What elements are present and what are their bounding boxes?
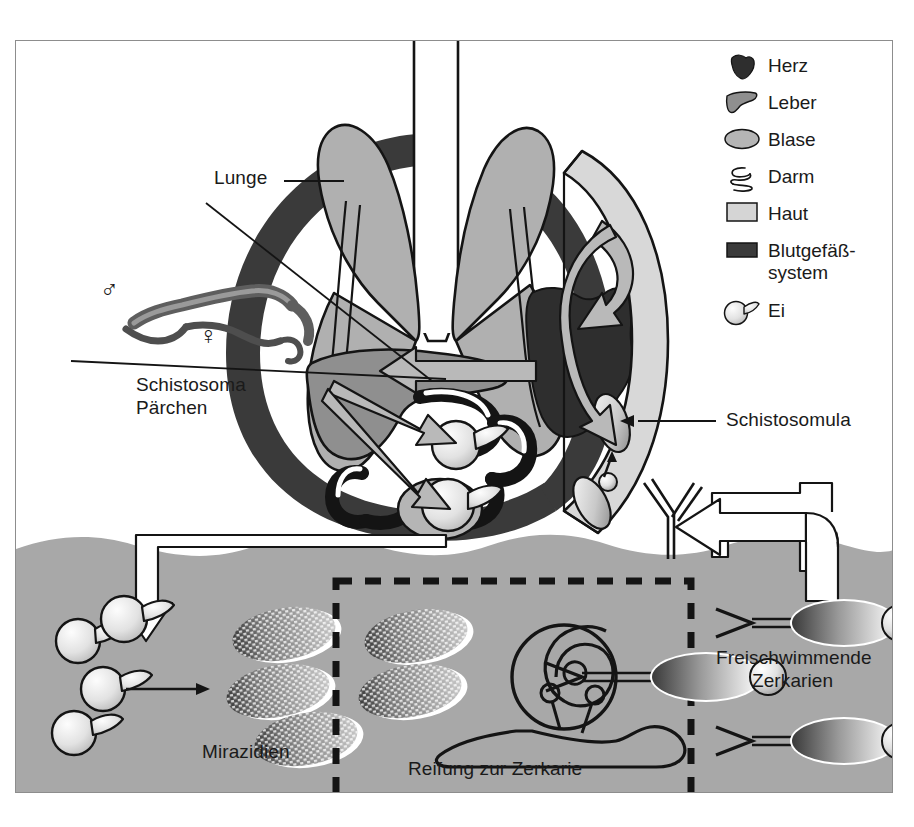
trachea	[414, 41, 458, 341]
legend-label-blutgefaess-line1: Blutgefäß-	[768, 240, 856, 262]
legend-item-leber: Leber	[716, 90, 893, 118]
label-zerkarien-line2: Zerkarien	[752, 670, 833, 692]
label-mirazidien: Mirazidien	[202, 741, 290, 763]
female-symbol: ♀	[199, 321, 218, 350]
diagram-stage: Lunge ♂ ♀ Schistosoma Pärchen Schistosom…	[0, 0, 914, 827]
legend-item-blase: Blase	[716, 127, 893, 155]
egg-icon	[716, 298, 768, 326]
male-symbol: ♂	[100, 275, 119, 304]
label-schistosoma-line2: Pärchen	[136, 397, 207, 419]
legend-label-leber: Leber	[768, 90, 817, 114]
diagram-frame: Lunge ♂ ♀ Schistosoma Pärchen Schistosom…	[15, 40, 893, 793]
legend-item-blutgefaess: Blutgefäß- system	[716, 238, 893, 286]
legend-label-haut: Haut	[768, 201, 808, 225]
legend-item-herz: Herz	[716, 53, 893, 81]
skin-icon	[716, 201, 768, 223]
liver-icon	[716, 90, 768, 116]
legend-label-ei: Ei	[768, 298, 785, 322]
legend-label-blase: Blase	[768, 127, 816, 151]
legend-label-blutgefaess: Blutgefäß- system	[768, 238, 856, 284]
egg-in-abdomen-1	[432, 421, 508, 469]
intestine-icon	[716, 164, 768, 194]
legend-label-herz: Herz	[768, 53, 808, 77]
label-lunge: Lunge	[214, 167, 267, 189]
bladder-icon	[716, 127, 768, 151]
legend-label-darm: Darm	[768, 164, 814, 188]
legend: Herz Leber Blase	[716, 53, 893, 335]
legend-item-ei: Ei	[716, 298, 893, 326]
label-schistosomula: Schistosomula	[726, 409, 851, 431]
label-schistosoma-line1: Schistosoma	[136, 374, 246, 396]
label-zerkarien-line1: Freischwimmende	[716, 647, 872, 669]
heart-icon	[716, 53, 768, 81]
legend-item-haut: Haut	[716, 201, 893, 229]
bloodvessel-icon	[716, 238, 768, 259]
legend-item-darm: Darm	[716, 164, 893, 192]
legend-label-blutgefaess-line2: system	[768, 262, 856, 284]
label-reifung: Reifung zur Zerkarie	[408, 758, 582, 780]
